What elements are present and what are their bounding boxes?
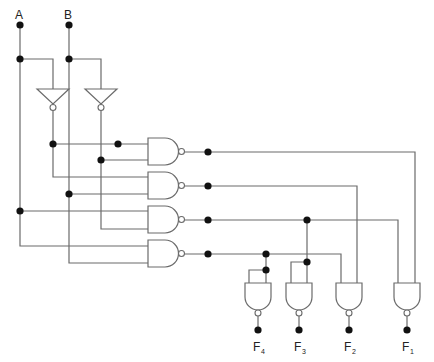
output-label-f2: F 2 <box>344 340 356 355</box>
terminal-f1 <box>403 326 410 333</box>
wire-input-a <box>20 25 148 246</box>
svg-text:1: 1 <box>410 348 414 355</box>
output-gate-f4 <box>245 283 271 330</box>
inverter-b <box>85 89 117 111</box>
nand-gate-3 <box>148 206 185 233</box>
svg-text:4: 4 <box>261 348 265 355</box>
output-gate-f3 <box>286 283 312 330</box>
output-gate-f2 <box>336 283 362 330</box>
logic-circuit-diagram: A B <box>0 0 434 362</box>
output-label-f4: F 4 <box>253 340 265 355</box>
nand-gate-2 <box>148 172 185 199</box>
wire-g2-to-f2 <box>185 186 358 283</box>
input-label-b: B <box>64 8 72 22</box>
terminal-f4 <box>254 326 261 333</box>
svg-text:2: 2 <box>352 348 356 355</box>
inverter-a <box>37 89 69 111</box>
output-gate-f1 <box>394 283 420 330</box>
terminal-b <box>65 21 72 28</box>
terminal-f3 <box>295 326 302 333</box>
svg-text:F: F <box>294 340 301 354</box>
terminal-f2 <box>345 326 352 333</box>
wire-g3 <box>185 220 399 283</box>
output-label-f1: F 1 <box>402 340 414 355</box>
svg-text:F: F <box>344 340 351 354</box>
wire-g1-to-f1 <box>185 152 416 283</box>
terminal-a <box>16 21 23 28</box>
output-label-f3: F 3 <box>294 340 306 355</box>
svg-text:F: F <box>253 340 260 354</box>
input-label-a: A <box>15 8 23 22</box>
svg-text:F: F <box>402 340 409 354</box>
nand-gate-1 <box>148 138 185 165</box>
nand-gate-4 <box>148 240 185 267</box>
svg-text:3: 3 <box>302 348 306 355</box>
